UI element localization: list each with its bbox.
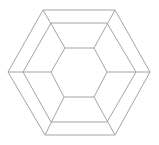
spoke-line [94,10,115,48]
outer-hexagon [8,10,150,135]
hexagon-diagram [0,0,159,145]
middle-hexagon [23,23,136,122]
spoke-line [94,97,115,135]
spoke-line [43,10,65,48]
inner-hexagon [51,48,107,97]
